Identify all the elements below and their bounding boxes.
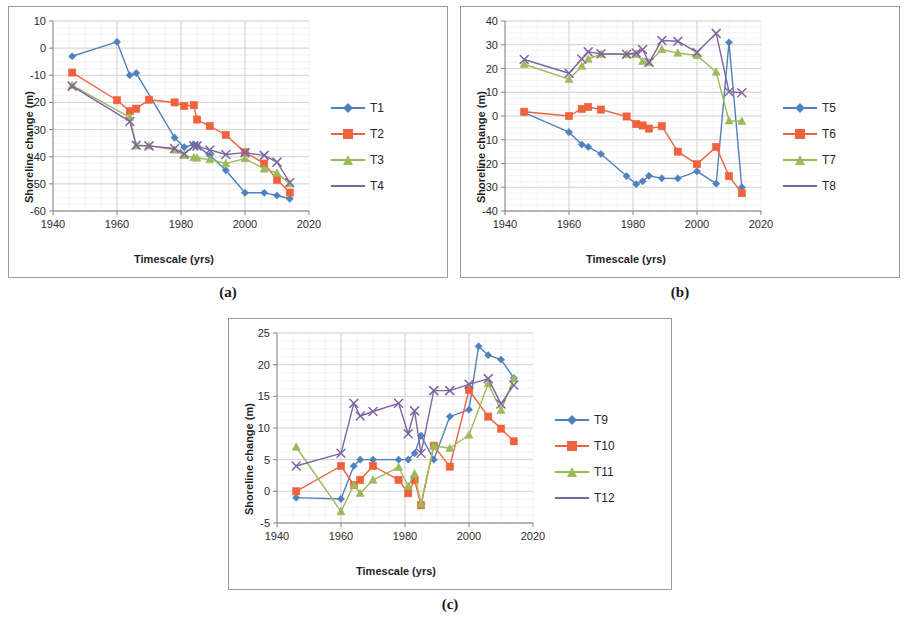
legend-item-t3[interactable]: T3 bbox=[331, 147, 384, 173]
chart-c-y-tick: 15 bbox=[258, 390, 270, 402]
legend-marker-square-icon bbox=[795, 129, 805, 139]
legend-key-t6-icon bbox=[783, 127, 817, 141]
legend-key-t9-icon bbox=[555, 413, 589, 427]
panel-c-frame: 2520151050-519401960198020002020 T9T10T1… bbox=[228, 318, 672, 590]
legend-key-t1-icon bbox=[331, 101, 365, 115]
chart-b-y-tick: 0 bbox=[492, 110, 498, 122]
legend-key-t5-icon bbox=[783, 101, 817, 115]
legend-item-t12[interactable]: T12 bbox=[555, 485, 615, 511]
chart-a-x-tick: 1980 bbox=[169, 218, 193, 230]
legend-label: T2 bbox=[370, 127, 384, 141]
chart-c-x-tick: 1980 bbox=[393, 530, 417, 542]
chart-b-x-tick: 1980 bbox=[621, 218, 645, 230]
chart-b-svg: 403020100-10-20-30-401940196019802000202… bbox=[461, 7, 791, 253]
legend-item-t4[interactable]: T4 bbox=[331, 173, 384, 199]
chart-b-y-tick: 40 bbox=[486, 15, 498, 27]
legend-item-t10[interactable]: T10 bbox=[555, 433, 615, 459]
chart-a-x-tick: 2000 bbox=[233, 218, 257, 230]
legend-item-t2[interactable]: T2 bbox=[331, 121, 384, 147]
chart-b-x-tick: 2000 bbox=[685, 218, 709, 230]
panel-a-y-axis-title: Shoreline change (m) bbox=[23, 91, 35, 203]
panel-a-x-axis-title: Timescale (yrs) bbox=[9, 253, 339, 265]
legend-marker-diamond-icon bbox=[795, 103, 805, 113]
chart-c-svg: 2520151050-519401960198020002020 bbox=[229, 319, 563, 565]
legend-label: T1 bbox=[370, 101, 384, 115]
legend-item-t11[interactable]: T11 bbox=[555, 459, 615, 485]
legend-key-t4-icon bbox=[331, 179, 365, 193]
legend-a: T1T2T3T4 bbox=[331, 95, 384, 199]
legend-key-t2-icon bbox=[331, 127, 365, 141]
chart-b-y-tick: -40 bbox=[482, 205, 498, 217]
panel-c-caption: (c) bbox=[228, 596, 672, 613]
chart-c-y-tick: 10 bbox=[258, 422, 270, 434]
chart-a-y-tick: -60 bbox=[30, 205, 46, 217]
legend-label: T6 bbox=[822, 127, 836, 141]
chart-b-y-tick: 20 bbox=[486, 63, 498, 75]
panel-a-frame: 100-10-20-30-40-50-601940196019802000202… bbox=[8, 6, 448, 278]
panel-c-x-axis-title: Timescale (yrs) bbox=[229, 565, 563, 577]
chart-c-x-tick: 1960 bbox=[329, 530, 353, 542]
legend-marker-diamond-icon bbox=[343, 103, 353, 113]
chart-b-y-tick: 30 bbox=[486, 39, 498, 51]
chart-a-x-tick: 1940 bbox=[41, 218, 65, 230]
legend-label: T4 bbox=[370, 179, 384, 193]
legend-item-t7[interactable]: T7 bbox=[783, 147, 836, 173]
legend-key-t8-icon bbox=[783, 179, 817, 193]
chart-c-y-tick: -5 bbox=[260, 517, 270, 529]
legend-label: T9 bbox=[594, 413, 608, 427]
chart-a-y-tick: -10 bbox=[30, 69, 46, 81]
figure-root: 100-10-20-30-40-50-601940196019802000202… bbox=[0, 0, 907, 630]
legend-item-t9[interactable]: T9 bbox=[555, 407, 615, 433]
panel-c: 2520151050-519401960198020002020 T9T10T1… bbox=[228, 318, 672, 623]
legend-key-t10-icon bbox=[555, 439, 589, 453]
chart-a-y-tick: 10 bbox=[34, 15, 46, 27]
chart-c-x-tick: 2000 bbox=[457, 530, 481, 542]
legend-item-t6[interactable]: T6 bbox=[783, 121, 836, 147]
legend-c: T9T10T11T12 bbox=[555, 407, 615, 511]
legend-label: T3 bbox=[370, 153, 384, 167]
chart-b-x-tick: 1940 bbox=[493, 218, 517, 230]
legend-line-icon bbox=[783, 185, 817, 187]
chart-c-x-tick: 2020 bbox=[521, 530, 545, 542]
legend-label: T11 bbox=[594, 465, 614, 479]
legend-label: T5 bbox=[822, 101, 836, 115]
legend-label: T8 bbox=[822, 179, 836, 193]
legend-key-t3-icon bbox=[331, 153, 365, 167]
chart-c-y-tick: 5 bbox=[264, 454, 270, 466]
chart-a-y-tick: 0 bbox=[40, 42, 46, 54]
panel-a-caption: (a) bbox=[8, 284, 448, 301]
legend-key-t11-icon bbox=[555, 465, 589, 479]
legend-label: T12 bbox=[594, 491, 615, 505]
legend-key-t7-icon bbox=[783, 153, 817, 167]
panel-b-caption: (b) bbox=[460, 284, 900, 301]
legend-marker-square-icon bbox=[343, 129, 353, 139]
legend-b: T5T6T7T8 bbox=[783, 95, 836, 199]
chart-b-x-tick: 2020 bbox=[749, 218, 773, 230]
legend-item-t1[interactable]: T1 bbox=[331, 95, 384, 121]
chart-a-x-tick: 2020 bbox=[297, 218, 321, 230]
panel-b-x-axis-title: Timescale (yrs) bbox=[461, 253, 791, 265]
panel-c-y-axis-title: Shoreline change (m) bbox=[243, 403, 255, 515]
chart-b-x-tick: 1960 bbox=[557, 218, 581, 230]
chart-c-y-tick: 0 bbox=[264, 485, 270, 497]
legend-marker-diamond-icon bbox=[567, 415, 577, 425]
legend-marker-square-icon bbox=[567, 441, 577, 451]
panel-b-y-axis-title: Shoreline change (m) bbox=[475, 91, 487, 203]
chart-c-x-tick: 1940 bbox=[265, 530, 289, 542]
chart-c-y-tick: 20 bbox=[258, 359, 270, 371]
chart-c-y-tick: 25 bbox=[258, 327, 270, 339]
chart-a-svg: 100-10-20-30-40-50-601940196019802000202… bbox=[9, 7, 339, 253]
legend-label: T7 bbox=[822, 153, 836, 167]
panel-b-frame: 403020100-10-20-30-401940196019802000202… bbox=[460, 6, 900, 278]
panel-b: 403020100-10-20-30-401940196019802000202… bbox=[460, 6, 900, 311]
legend-item-t5[interactable]: T5 bbox=[783, 95, 836, 121]
legend-line-icon bbox=[331, 185, 365, 187]
chart-b-y-tick: 10 bbox=[486, 86, 498, 98]
panel-a: 100-10-20-30-40-50-601940196019802000202… bbox=[8, 6, 448, 311]
legend-line-icon bbox=[555, 497, 589, 499]
legend-label: T10 bbox=[594, 439, 615, 453]
legend-key-t12-icon bbox=[555, 491, 589, 505]
legend-item-t8[interactable]: T8 bbox=[783, 173, 836, 199]
chart-a-x-tick: 1960 bbox=[105, 218, 129, 230]
